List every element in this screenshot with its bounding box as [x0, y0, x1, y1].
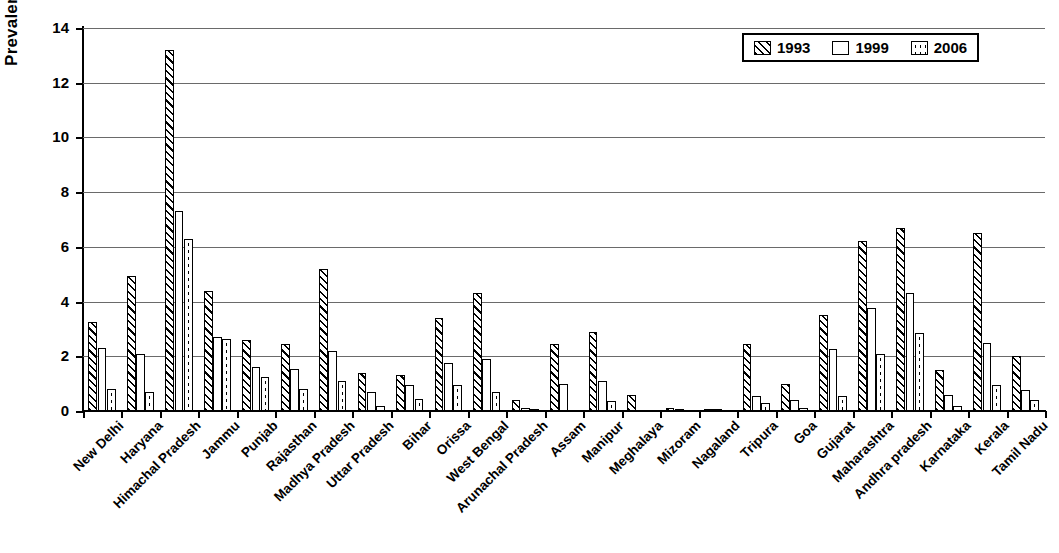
x-tick-mark — [699, 411, 701, 418]
plot-area — [83, 28, 1045, 411]
chart-legend: 199319992006 — [742, 33, 979, 62]
bar-1993 — [819, 315, 828, 411]
bar-1999 — [175, 211, 184, 411]
y-tick-label: 10 — [29, 129, 69, 144]
bar-1993 — [512, 400, 521, 411]
bar-group — [737, 28, 775, 411]
bar-2006 — [530, 409, 539, 411]
bar-group — [699, 28, 737, 411]
x-tick-mark — [660, 411, 662, 418]
bar-group — [930, 28, 968, 411]
x-axis-label-text: Madhya Pradesh — [271, 418, 357, 504]
bar-1999 — [405, 385, 414, 411]
bar-1993 — [165, 50, 174, 411]
x-tick-mark — [814, 411, 816, 418]
y-tick-mark — [76, 192, 83, 194]
y-tick-mark — [76, 247, 83, 249]
x-axis-label-text: Mizoram — [655, 418, 704, 467]
y-tick-mark — [76, 83, 83, 85]
bar-1993 — [627, 395, 636, 411]
x-tick-mark — [968, 411, 970, 418]
x-axis-label: Assam — [578, 418, 589, 429]
x-axis-label-text: Manipur — [579, 418, 627, 466]
bar-1993 — [896, 228, 905, 411]
bar-1993 — [1012, 356, 1021, 411]
x-axis-label-text: Kerala — [972, 418, 1012, 458]
x-axis-label: Punjab — [270, 418, 281, 429]
bar-group — [968, 28, 1006, 411]
bar-2006 — [761, 403, 770, 411]
bar-1993 — [281, 344, 290, 411]
bar-1999 — [444, 363, 453, 411]
x-axis-label-text: Uttar Pradesh — [323, 418, 396, 491]
x-tick-mark — [121, 411, 123, 418]
y-tick-label: 14 — [29, 20, 69, 35]
bar-1993 — [319, 269, 328, 411]
x-axis-label-text: Jammu — [198, 418, 242, 462]
bar-2006 — [184, 239, 193, 411]
y-tick-label: 0 — [29, 403, 69, 418]
x-axis-label: Manipur — [616, 418, 627, 429]
bar-2006 — [107, 389, 116, 411]
x-axis-label-text: New Delhi — [71, 418, 127, 474]
x-tick-mark — [314, 411, 316, 418]
x-tick-mark — [352, 411, 354, 418]
bar-1993 — [358, 373, 367, 411]
bar-group — [83, 28, 121, 411]
bar-group — [429, 28, 467, 411]
bar-group — [853, 28, 891, 411]
bar-2006 — [492, 392, 501, 411]
bar-2006 — [992, 385, 1001, 411]
x-axis-label-text: Maharashtra — [829, 418, 896, 485]
x-axis-label: Madhya Pradesh — [347, 418, 358, 429]
x-axis-label: Uttar Pradesh — [386, 418, 397, 429]
bar-2006 — [915, 333, 924, 411]
y-tick-mark — [76, 356, 83, 358]
bar-group — [121, 28, 159, 411]
bar-2006 — [838, 396, 847, 411]
x-tick-mark — [583, 411, 585, 418]
legend-label: 2006 — [934, 39, 967, 56]
bar-group — [622, 28, 660, 411]
bar-2006 — [607, 401, 616, 411]
bar-1999 — [752, 396, 761, 411]
bar-group — [314, 28, 352, 411]
x-tick-mark — [545, 411, 547, 418]
bar-2006 — [222, 339, 231, 411]
bar-1999 — [713, 409, 722, 411]
bar-group — [660, 28, 698, 411]
bar-1993 — [550, 344, 559, 411]
x-axis-label: New Delhi — [116, 418, 127, 429]
x-axis-label-text: Andhra pradesh — [851, 418, 935, 502]
bar-1999 — [1021, 390, 1030, 411]
x-axis-label: Tamil Nadu — [1040, 418, 1051, 429]
x-tick-mark — [930, 411, 932, 418]
bar-group — [506, 28, 544, 411]
x-axis-label-text: Meghalaya — [606, 418, 665, 477]
x-axis-label: Andhra pradesh — [924, 418, 935, 429]
bar-2006 — [799, 408, 808, 411]
bar-2006 — [876, 354, 885, 411]
x-tick-mark — [853, 411, 855, 418]
bar-1999 — [944, 395, 953, 411]
bar-2006 — [299, 389, 308, 411]
bar-1999 — [790, 400, 799, 411]
legend-item-2006: 2006 — [911, 39, 967, 56]
bar-1999 — [675, 409, 684, 411]
x-tick-mark — [237, 411, 239, 418]
x-axis-label: Himachal Pradesh — [193, 418, 204, 429]
bar-1993 — [743, 344, 752, 411]
x-axis-label-text: Nagaland — [689, 418, 743, 472]
x-axis-label-text: Orissa — [433, 418, 473, 458]
bar-group — [776, 28, 814, 411]
bar-1999 — [906, 293, 915, 411]
bar-1999 — [213, 337, 222, 411]
x-axis-label-text: Tripura — [738, 418, 781, 461]
bar-group — [160, 28, 198, 411]
legend-swatch-2006 — [911, 41, 928, 55]
bar-1993 — [127, 276, 136, 411]
legend-label: 1999 — [855, 39, 888, 56]
x-axis-label: Bihar — [424, 418, 435, 429]
x-axis-label: Karnataka — [963, 418, 974, 429]
x-axis-label: Rajasthan — [309, 418, 320, 429]
